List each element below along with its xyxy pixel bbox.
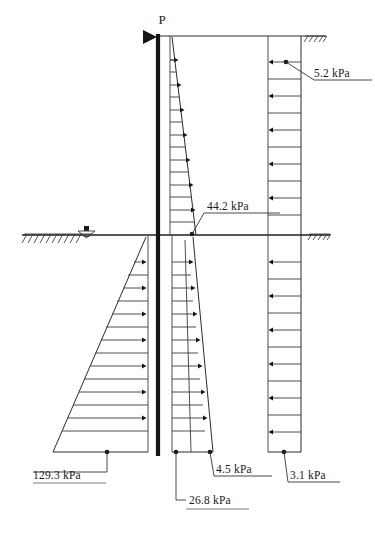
mid-center-leader xyxy=(192,213,280,234)
load-label: P xyxy=(158,12,165,27)
centre-pressure-block-below-ground xyxy=(172,236,213,454)
label-bottom-center-right-group: 4.5 kPa xyxy=(210,452,272,476)
bottom-left-label: 129.3 kPa xyxy=(33,469,81,481)
right-arrows xyxy=(269,60,302,435)
left-rungs xyxy=(62,275,148,431)
label-bottom-left-group: 129.3 kPa xyxy=(33,452,107,483)
bottom-right-label: 3.1 kPa xyxy=(290,469,326,481)
centre-pressure-block-above-ground xyxy=(170,36,196,235)
centre-below-rungs xyxy=(172,275,205,431)
pressure-diagram-figure: P xyxy=(0,0,375,545)
centre-above-rungs xyxy=(170,72,194,222)
load-arrow-icon xyxy=(143,30,157,44)
label-bottom-right-group: 3.1 kPa xyxy=(284,452,340,482)
mid-center-label: 44.2 kPa xyxy=(207,200,249,212)
label-bottom-center-group: 26.8 kPa xyxy=(176,452,249,509)
centre-above-arrows xyxy=(170,58,196,213)
right-pressure-block xyxy=(268,36,301,454)
left-arrows xyxy=(68,260,147,421)
fixed-support-hatch-icon-top xyxy=(304,36,327,42)
pile-pressure-diagram-canvas: P xyxy=(0,0,375,545)
label-top-right-group: 5.2 kPa xyxy=(284,60,372,80)
water-table-icon xyxy=(78,226,95,238)
bottom-center-leader xyxy=(176,452,186,500)
top-right-label: 5.2 kPa xyxy=(314,67,350,79)
left-pressure-block xyxy=(53,236,148,454)
bottom-center-right-label: 4.5 kPa xyxy=(216,463,252,475)
label-mid-center-group: 44.2 kPa xyxy=(190,200,280,236)
bottom-center-label: 26.8 kPa xyxy=(189,494,231,506)
applied-load-group: P xyxy=(143,12,166,44)
